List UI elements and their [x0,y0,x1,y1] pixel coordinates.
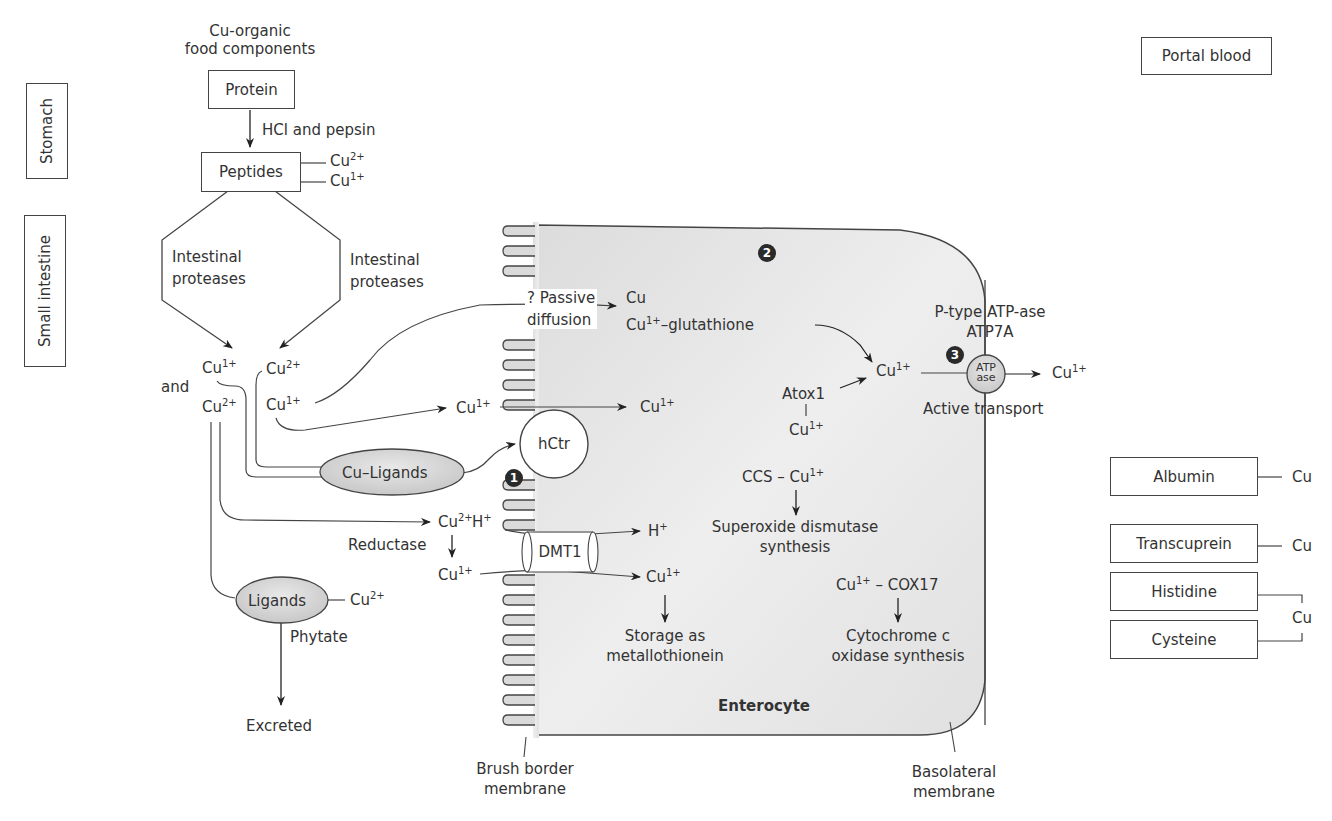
ligands-cu2-label: Cu2+ [350,591,385,609]
basolateral-label: Basolateralmembrane [904,763,1004,801]
step-badge-3: 3 [946,346,964,364]
dmt1-cu1-out-label: Cu1+ [646,568,681,586]
protease-right-label: Intestinalproteases [350,251,424,291]
lumen-cu2-left: Cu2+ [202,398,237,416]
ligands-label: Ligands [248,592,306,610]
atpase-label: ATPase [968,363,1004,383]
cu-ligands-label: Cu–Ligands [342,464,428,482]
atox1-cu1-label: Cu1+ [789,421,824,439]
cu-glutathione-label: Cu1+–glutathione [626,316,754,334]
digestion-step-label: HCl and pepsin [262,121,375,139]
phytate-label: Phytate [290,628,348,646]
lumen-cu1-left: Cu1+ [202,359,237,377]
cell-cu1-hub: Cu1+ [876,362,911,380]
protein-box: Protein [208,70,295,109]
lumen-cu1-right: Cu1+ [266,396,301,414]
membrane-cu1-label: Cu1+ [456,399,491,417]
brush-border-label: Brush bordermembrane [470,760,580,798]
step-badge-2: 2 [758,244,776,262]
peptide-cu2-label: Cu2+ [330,152,365,170]
cox17-label: Cu1+ – COX17 [836,576,938,594]
albumin-cu-label: Cu [1292,468,1312,486]
histidine-box: Histidine [1110,572,1258,611]
peptide-cu1-label: Cu1+ [330,172,365,190]
excreted-label: Excreted [246,717,312,735]
transcuprein-box: Transcuprein [1110,524,1258,563]
storage-label: Storage asmetallothionein [600,627,730,665]
passive-diffusion-label: ? Passivediffusion [525,289,597,329]
cysteine-box: Cysteine [1110,620,1258,659]
reductase-h-label: H+ [472,513,492,531]
food-source-label: Cu-organic food components [170,22,330,58]
protease-left-label: Intestinalproteases [172,248,246,288]
and-label: and [161,378,189,396]
reductase-label: Reductase [348,536,426,554]
cell-cu-label: Cu [626,289,646,307]
region-small-intestine: Small intestine [24,215,66,367]
hctr-label: hCtr [520,435,588,453]
exported-cu1-label: Cu1+ [1052,364,1087,382]
active-transport-label: Active transport [923,400,1043,418]
reduced-cu1-label: Cu1+ [438,566,473,584]
cell-cu1-from-hctr: Cu1+ [640,398,675,416]
region-portal-blood: Portal blood [1141,37,1272,75]
step-badge-1: 1 [505,469,523,487]
enterocyte-label: Enterocyte [718,697,810,715]
reductase-cu2-label: Cu2+ [438,513,473,531]
lumen-cu2-right: Cu2+ [266,360,301,378]
transcuprein-cu-label: Cu [1292,537,1312,555]
atpase-name-label: P-type ATP-aseATP7A [920,303,1060,341]
amino-acid-cu-label: Cu [1292,609,1312,627]
albumin-box: Albumin [1110,457,1258,496]
peptides-box: Peptides [201,152,301,192]
region-stomach: Stomach [26,83,68,179]
sod-synthesis-label: Superoxide dismutasesynthesis [690,518,900,556]
cytochrome-synthesis-label: Cytochrome coxidase synthesis [818,627,978,665]
atox1-label: Atox1 [782,385,825,403]
dmt1-h-out-label: H+ [648,522,668,540]
dmt1-label: DMT1 [528,543,592,561]
ccs-label: CCS – Cu1+ [742,468,824,486]
